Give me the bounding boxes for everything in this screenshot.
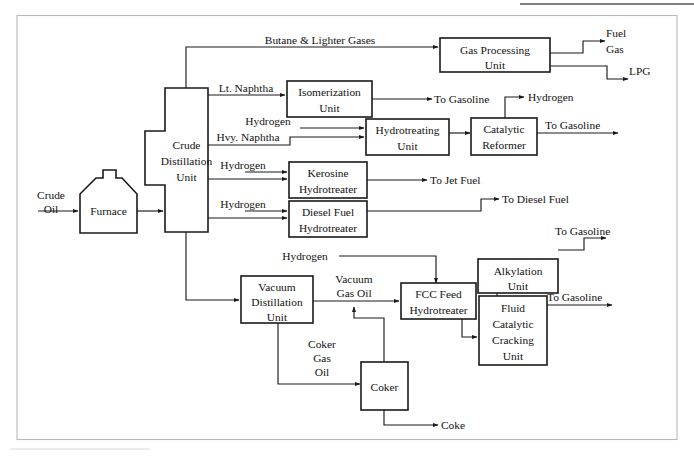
unit-label-coker: Coker	[371, 381, 399, 393]
stream-label-vacuum-gas-oil-line1: Vacuum	[335, 273, 372, 285]
stream-label-crude-oil-line2: Oil	[44, 203, 59, 215]
stream-label-fuel-gas-line2: Gas	[606, 43, 624, 55]
stream-label-hydrogen-hydrotreating: Hydrogen	[245, 115, 291, 127]
unit-label-diesel-hydrotreater-line2: Hydrotreater	[299, 222, 357, 234]
unit-label-diesel-hydrotreater-line1: Diesel Fuel	[302, 206, 354, 218]
unit-label-fcc-line3: Cracking	[492, 334, 534, 346]
flow-coker-product-to-vgo	[354, 307, 384, 362]
stream-label-to-jet-fuel: To Jet Fuel	[430, 174, 480, 186]
unit-label-vacuum-distillation-line2: Distillation	[251, 296, 303, 308]
unit-label-gas-processing-line2: Unit	[485, 59, 506, 71]
flow-coke	[384, 410, 438, 425]
unit-label-kerosine-hydrotreater-line2: Hydrotreater	[299, 183, 357, 195]
stream-label-coker-gas-oil-line2: Gas	[313, 352, 331, 364]
stream-label-to-diesel-fuel: To Diesel Fuel	[502, 193, 569, 205]
unit-label-alkylation-line1: Alkylation	[494, 265, 543, 277]
unit-label-vacuum-distillation-line1: Vacuum	[258, 281, 295, 293]
unit-label-crude-distillation-line2: Distillation	[161, 155, 213, 167]
unit-label-crude-distillation-line3: Unit	[176, 171, 197, 183]
refinery-flow-diagram: Furnace Crude Distillation Unit Gas Proc…	[0, 0, 694, 459]
stream-label-crude-oil-line1: Crude	[37, 189, 65, 201]
stream-label-butane-lighter-gases: Butane & Lighter Gases	[265, 34, 376, 46]
unit-label-vacuum-distillation-line3: Unit	[267, 311, 288, 323]
stream-label-coker-gas-oil-line3: Oil	[315, 366, 330, 378]
stream-label-hydrogen-diesel: Hydrogen	[220, 198, 266, 210]
flow-to-diesel-fuel	[367, 199, 499, 211]
flow-fuel-gas	[550, 41, 605, 53]
unit-label-kerosine-hydrotreater-line1: Kerosine	[307, 167, 348, 179]
unit-label-hydrotreating-line2: Unit	[397, 140, 418, 152]
stream-label-coke: Coke	[441, 419, 465, 431]
stream-label-lpg: LPG	[629, 65, 651, 77]
diagram-canvas: Furnace Crude Distillation Unit Gas Proc…	[0, 0, 694, 459]
unit-label-fcc-line1: Fluid	[501, 302, 525, 314]
stream-label-hvy-naphtha: Hvy. Naphtha	[216, 131, 279, 143]
stream-label-hydrogen-product: Hydrogen	[528, 91, 574, 103]
unit-label-fcc-feed-line1: FCC Feed	[415, 288, 462, 300]
unit-label-fcc-line2: Catalytic	[492, 318, 533, 330]
unit-label-isomerization-line1: Isomerization	[298, 86, 361, 98]
unit-label-crude-distillation-line1: Crude	[173, 139, 201, 151]
stream-label-coker-gas-oil-line1: Coker	[308, 338, 336, 350]
flow-lpg	[550, 66, 628, 79]
unit-furnace[interactable]	[80, 170, 137, 233]
flow-cdu-to-vdu	[186, 232, 239, 300]
unit-label-isomerization-line2: Unit	[319, 102, 340, 114]
stream-label-fuel-gas-line1: Fuel	[606, 27, 626, 39]
stream-label-to-gasoline-fcc: To Gasoline	[547, 291, 602, 303]
unit-label-alkylation-line2: Unit	[508, 280, 529, 292]
flow-reformer-hydrogen	[505, 97, 524, 120]
stream-label-to-gasoline-reformer: To Gasoline	[545, 119, 600, 131]
unit-label-catalytic-reformer-line1: Catalytic	[483, 123, 524, 135]
unit-label-gas-processing-line1: Gas Processing	[460, 44, 530, 56]
stream-label-hydrogen-kerosine: Hydrogen	[220, 159, 266, 171]
stream-label-lt-naphtha: Lt. Naphtha	[219, 82, 273, 94]
unit-label-fcc-feed-line2: Hydrotreater	[409, 304, 467, 316]
flow-alkylation-to-gasoline	[558, 238, 606, 250]
stream-label-hydrogen-fcc-feed: Hydrogen	[282, 250, 328, 262]
stream-label-vacuum-gas-oil-line2: Gas Oil	[336, 287, 371, 299]
stream-label-to-gasoline-isomerization: To Gasoline	[434, 93, 489, 105]
unit-label-catalytic-reformer-line2: Reformer	[482, 139, 526, 151]
unit-label-furnace: Furnace	[90, 205, 127, 217]
unit-label-hydrotreating-line1: Hydrotreating	[376, 124, 440, 136]
unit-label-fcc-line4: Unit	[503, 350, 524, 362]
stream-label-to-gasoline-alkylation: To Gasoline	[555, 225, 610, 237]
